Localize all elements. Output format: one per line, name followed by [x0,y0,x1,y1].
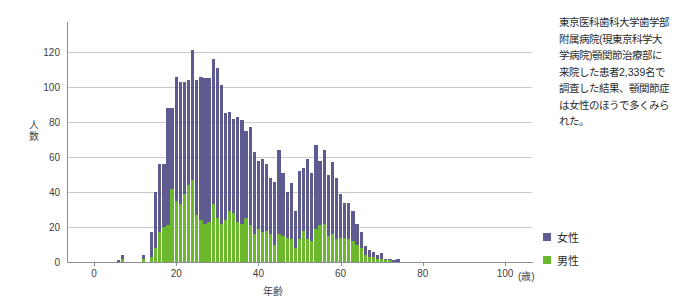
bar-segment-female [368,250,371,257]
bar-segment-female [331,162,334,234]
bar [170,108,173,262]
bar-segment-female [170,108,173,189]
bar-segment-male [294,248,297,262]
x-tick-label: 40 [253,268,264,279]
bar-segment-female [150,232,153,257]
bar-segment-female [236,117,239,222]
bar [154,192,157,262]
bar-segment-female [281,173,284,236]
bar [302,168,305,263]
x-tick-label: 100 [497,268,514,279]
bar-segment-female [162,164,165,227]
bar-segment-male [343,238,346,263]
bar [277,150,280,262]
bar [265,164,268,262]
legend-label: 女性 [557,229,579,245]
bar-segment-male [236,222,239,262]
bar [364,246,367,262]
bar [318,161,321,263]
bar-segment-female [240,120,243,223]
bar-segment-male [166,225,169,262]
bar [249,127,252,262]
bar [240,120,243,262]
bar [203,78,206,262]
caption-line: れた。 [559,113,683,130]
bar-segment-male [244,218,247,262]
bar [224,113,227,262]
bar-segment-female [351,211,354,241]
bar-segment-male [335,239,338,262]
bar-segment-female [360,232,363,248]
bar-segment-male [347,239,350,262]
bar-segment-female [339,194,342,238]
bar [335,178,338,262]
bar-segment-male [121,259,124,263]
bar [314,145,317,262]
bar [179,82,182,262]
bar-segment-female [314,145,317,229]
bar-segment-female [187,80,190,185]
bar-segment-male [253,234,256,262]
bar-segment-male [224,220,227,262]
bar [376,255,379,262]
bar-segment-female [154,192,157,248]
bar [298,171,301,262]
bar-segment-male [269,234,272,262]
bar-segment-male [306,239,309,262]
bar-segment-male [314,229,317,262]
bar [347,203,350,263]
bar-segment-male [323,224,326,263]
bar-segment-male [187,185,190,262]
bar-segment-male [364,255,367,262]
bar-segment-male [257,229,260,262]
bar [269,178,272,262]
bar-segment-male [191,180,194,262]
bar [392,260,395,262]
legend-item-female[interactable]: 女性 [543,229,579,245]
bar-segment-female [302,168,305,231]
bar [117,260,120,262]
bar-segment-female [207,78,210,222]
bar [351,211,354,262]
bar-segment-male [203,224,206,263]
legend-label: 男性 [557,252,579,268]
bar [187,80,190,262]
bar-segment-male [327,236,330,262]
bar [355,224,358,263]
caption-line: 学病院)顎関節治療部に [559,47,683,64]
bar-segment-male [158,232,161,262]
y-tick-label: 60 [0,152,60,163]
caption-line: 来院した患者2,339名で [559,64,683,81]
bar [380,253,383,262]
chart-container: 020406080100120 人数 020406080100 (歳) 年齢 [0,0,545,303]
bar [166,108,169,262]
bar [142,255,145,262]
bar [360,232,363,262]
bar [396,259,399,263]
chart-page: 020406080100120 人数 020406080100 (歳) 年齢 女… [0,0,684,303]
bar-segment-male [302,231,305,263]
bar [158,164,161,262]
bar-segment-male [351,241,354,262]
y-tick-label: 40 [0,187,60,198]
bar-segment-female [212,59,215,204]
bar-segment-male [372,257,375,262]
bar-segment-male [277,234,280,262]
bar-segment-male [360,248,363,262]
bar-segment-male [388,260,391,262]
legend-item-male[interactable]: 男性 [543,252,579,268]
bar-segment-male [318,225,321,262]
bar-segment-male [380,259,383,263]
bar [216,68,219,262]
bar [150,232,153,262]
bar [384,259,387,263]
bar-segment-female [347,203,350,240]
bar-segment-female [335,178,338,239]
caption-text: 東京医科歯科大学歯学部附属病院(現東京科学大学病院)顎関節治療部に来院した患者2… [559,14,683,130]
bar-segment-male [249,225,252,262]
bar-segment-female [232,119,235,214]
bar-segment-female [290,183,293,239]
bar [232,119,235,263]
bar-segment-female [220,85,223,223]
bar [207,78,210,262]
